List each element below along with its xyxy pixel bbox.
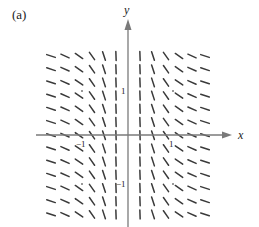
slope-segment [89, 171, 94, 178]
slope-segment [188, 173, 196, 177]
slope-field-plot: x y −1 1 1 −1 [0, 0, 259, 227]
slope-segment [163, 145, 168, 152]
slope-segment [61, 107, 69, 111]
y-tick-label-neg1: −1 [116, 179, 126, 189]
slope-segment [175, 80, 182, 85]
slope-segment [152, 197, 155, 206]
slope-segment [61, 199, 69, 203]
slope-segment [175, 119, 182, 124]
slope-segment [163, 184, 168, 191]
slope-segment [47, 213, 56, 216]
slope-segment [47, 160, 56, 163]
slope-segment [152, 118, 155, 127]
y-axis-label: y [123, 3, 130, 17]
slope-segment [152, 52, 155, 61]
slope-segment [103, 91, 106, 100]
slope-segment [188, 67, 196, 71]
slope-segment [152, 91, 155, 100]
slope-segment [163, 211, 168, 218]
slope-segment [152, 171, 155, 180]
slope-segment [75, 172, 82, 177]
slope-segment [152, 184, 155, 193]
slope-segment [188, 94, 196, 98]
slope-segment [89, 184, 94, 191]
slope-segment [103, 65, 106, 74]
slope-segment [163, 158, 168, 165]
x-tick-label-neg1: −1 [76, 139, 86, 149]
slope-segment [61, 147, 69, 151]
slope-segment [103, 118, 106, 127]
slope-segment [75, 67, 82, 72]
slope-segment [188, 147, 196, 151]
slope-segment [152, 210, 155, 219]
slope-segment [188, 186, 196, 190]
slope-segment [201, 94, 210, 97]
slope-segment [175, 185, 182, 190]
slope-segment [61, 213, 69, 217]
slope-segment [175, 159, 182, 164]
x-tick-label-pos1: 1 [169, 139, 174, 149]
slope-segment [163, 171, 168, 178]
slope-segment [163, 79, 168, 86]
slope-segment [188, 107, 196, 111]
slope-segment [201, 107, 210, 110]
slope-segment [175, 172, 182, 177]
slope-segment [47, 94, 56, 97]
slope-segment [47, 55, 56, 58]
slope-segment [188, 199, 196, 203]
slope-segment [201, 81, 210, 84]
slope-segment [201, 200, 210, 203]
slope-segment [163, 52, 168, 59]
slope-segment [75, 106, 82, 111]
panel-label: (a) [12, 7, 26, 23]
slope-segment [175, 53, 182, 58]
marker-dot [81, 90, 83, 92]
slope-segment [75, 80, 82, 85]
slope-segment [47, 200, 56, 203]
slope-segment [47, 173, 56, 176]
slope-segment [47, 121, 56, 124]
slope-segment [152, 144, 155, 153]
slope-segment [75, 93, 82, 98]
slope-segment [47, 81, 56, 84]
slope-segment [103, 171, 106, 180]
slope-segment [201, 147, 210, 150]
slope-segment [61, 81, 69, 85]
slope-segment [163, 198, 168, 205]
slope-segment [175, 106, 182, 111]
slope-segment [188, 54, 196, 58]
slope-segment [47, 147, 56, 150]
slope-segment [61, 120, 69, 124]
slope-segment [75, 199, 82, 204]
slope-segment [103, 52, 106, 61]
slope-segment [201, 55, 210, 58]
slope-segment [89, 79, 94, 86]
slope-segment [188, 213, 196, 217]
slope-segment [89, 66, 94, 73]
slope-segment [75, 185, 82, 190]
slope-segment [47, 68, 56, 71]
slope-segment [175, 146, 182, 151]
x-axis-label: x [237, 128, 244, 142]
slope-segment [47, 107, 56, 110]
slope-segment [75, 159, 82, 164]
slope-segment [89, 158, 94, 165]
slope-segment [89, 92, 94, 99]
slope-segment [89, 118, 94, 125]
slope-segment [163, 118, 168, 125]
slope-segment [201, 173, 210, 176]
slope-segment [201, 187, 210, 190]
slope-segment [175, 67, 182, 72]
x-axis-arrow-icon [222, 132, 232, 139]
slope-segment [152, 78, 155, 87]
slope-segment [103, 210, 106, 219]
slope-segment [175, 93, 182, 98]
slope-segment [61, 160, 69, 164]
slope-segment [152, 105, 155, 114]
slope-segment [61, 94, 69, 98]
slope-segment [61, 173, 69, 177]
marker-dot [81, 183, 83, 185]
slope-segment [61, 67, 69, 71]
slope-segment [188, 160, 196, 164]
y-axis-arrow-icon [125, 19, 132, 30]
